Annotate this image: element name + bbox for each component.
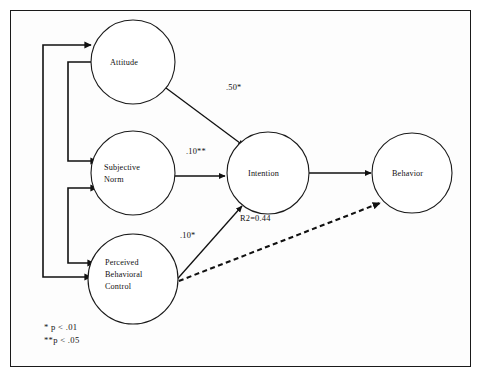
node-intention[interactable]: Intention — [227, 132, 309, 214]
node-intention-label: Intention — [248, 169, 279, 178]
edge-label-attitude-to-intention: .50* — [226, 83, 241, 92]
node-pbc-label-line3: Control — [105, 282, 132, 291]
node-attitude[interactable]: Attitude — [91, 20, 175, 104]
edge-norm-pbc-correlation — [68, 188, 97, 263]
edge-pbc-to-intention — [172, 206, 242, 285]
node-behavior[interactable]: Behavior — [372, 133, 452, 213]
r-squared-annotation: R2=0.44 — [240, 214, 271, 223]
legend-line-2: **p < .05 — [44, 335, 79, 345]
edge-label-norm-to-intention: .10** — [186, 147, 206, 156]
diagram-canvas: Attitude Subjective Norm Perceived Behav… — [0, 0, 487, 381]
node-subjective-norm[interactable]: Subjective Norm — [91, 131, 175, 215]
node-pbc-label-line2: Behavioral — [105, 270, 143, 279]
node-attitude-label: Attitude — [110, 58, 138, 67]
edge-attitude-to-intention — [166, 88, 244, 146]
legend-line-1: * p < .01 — [44, 322, 77, 332]
edge-label-pbc-to-intention: .10* — [180, 231, 195, 240]
node-pbc-label-line1: Perceived — [105, 258, 139, 267]
edge-pbc-to-behavior — [171, 203, 380, 284]
node-subjective-norm-circle[interactable] — [91, 131, 175, 215]
node-subjective-norm-label-line1: Subjective — [104, 163, 140, 172]
node-behavior-label: Behavior — [392, 169, 423, 178]
figure-container: Attitude Subjective Norm Perceived Behav… — [0, 0, 487, 381]
node-perceived-behavioral-control-circle[interactable] — [88, 234, 178, 324]
legend: * p < .01 **p < .05 — [44, 322, 79, 345]
node-perceived-behavioral-control[interactable]: Perceived Behavioral Control — [88, 234, 178, 324]
node-subjective-norm-label-line2: Norm — [104, 175, 124, 184]
